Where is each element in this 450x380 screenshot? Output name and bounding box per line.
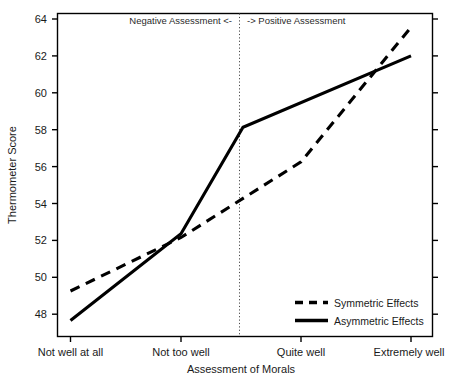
- y-tick-label: 58: [35, 124, 47, 136]
- legend-label-asymmetric: Asymmetric Effects: [334, 315, 424, 327]
- x-axis-title: Assessment of Morals: [187, 363, 296, 375]
- y-tick-label: 60: [35, 87, 47, 99]
- line-chart: 64 62 60 58 56 54 52 50 48 Not well at a…: [0, 0, 450, 380]
- x-tick-labels: Not well at all Not too well Quite well …: [38, 346, 445, 358]
- y-tick-labels: 64 62 60 58 56 54 52 50 48: [35, 13, 47, 320]
- series-asymmetric-effects: [71, 56, 412, 321]
- x-axis-ticks: [71, 337, 412, 343]
- x-tick-label: Extremely well: [374, 346, 445, 358]
- y-tick-label: 64: [35, 13, 47, 25]
- y-tick-label: 50: [35, 271, 47, 283]
- y-axis-title: Thermometer Score: [6, 126, 18, 224]
- series-symmetric-effects: [71, 27, 412, 291]
- y-tick-label: 62: [35, 50, 47, 62]
- x-tick-label: Not well at all: [38, 346, 103, 358]
- y-tick-label: 48: [35, 308, 47, 320]
- negative-assessment-annotation: Negative Assessment <-: [129, 15, 232, 26]
- chart-container: 64 62 60 58 56 54 52 50 48 Not well at a…: [0, 0, 450, 380]
- legend: Symmetric Effects Asymmetric Effects: [295, 297, 424, 327]
- x-tick-label: Quite well: [277, 346, 325, 358]
- positive-assessment-annotation: -> Positive Assessment: [247, 15, 346, 26]
- x-tick-label: Not too well: [152, 346, 209, 358]
- y-axis-ticks-right: [433, 19, 439, 314]
- y-tick-label: 54: [35, 198, 47, 210]
- y-tick-label: 56: [35, 161, 47, 173]
- y-axis-ticks: [52, 19, 58, 314]
- legend-label-symmetric: Symmetric Effects: [334, 297, 418, 309]
- y-tick-label: 52: [35, 234, 47, 246]
